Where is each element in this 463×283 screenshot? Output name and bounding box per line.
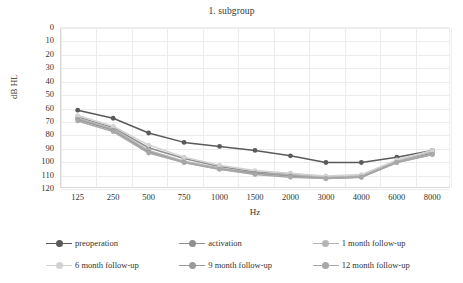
- legend-label: 12 month follow-up: [342, 260, 410, 270]
- legend-label: preoperation: [75, 238, 118, 248]
- legend-marker-icon: [179, 259, 205, 271]
- series-point: [146, 143, 151, 148]
- series-point: [253, 148, 258, 153]
- x-tick-label: 8000: [424, 192, 441, 202]
- series-point: [146, 151, 151, 156]
- y-tick-label: 100: [6, 156, 58, 166]
- y-tick-label: 80: [6, 129, 58, 139]
- series-point: [146, 131, 151, 136]
- y-tick-label: 120: [6, 183, 58, 193]
- legend-marker-icon: [313, 237, 339, 249]
- series-point: [111, 129, 116, 134]
- series-point: [359, 160, 364, 165]
- series-point: [430, 152, 435, 157]
- y-tick-label: 50: [6, 89, 58, 99]
- legend-label: 9 month follow-up: [208, 260, 272, 270]
- y-tick-label: 10: [6, 35, 58, 45]
- legend-item[interactable]: 6 month follow-up: [46, 254, 179, 276]
- legend-row: 6 month follow-up9 month follow-up12 mon…: [46, 254, 446, 276]
- y-tick-label: 30: [6, 62, 58, 72]
- legend-marker-icon: [46, 237, 72, 249]
- legend-label: activation: [208, 238, 242, 248]
- legend-item[interactable]: preoperation: [46, 232, 179, 254]
- legend-marker-icon: [313, 259, 339, 271]
- x-tick-label: 1500: [247, 192, 264, 202]
- x-tick-label: 1000: [211, 192, 228, 202]
- legend-item[interactable]: activation: [179, 232, 312, 254]
- chart-legend: preoperationactivation1 month follow-up6…: [46, 232, 446, 278]
- x-tick-label: 125: [71, 192, 84, 202]
- gridline-vertical: [451, 28, 452, 187]
- y-tick-label: 40: [6, 76, 58, 86]
- series-point: [111, 116, 116, 121]
- y-tick-label: 110: [6, 170, 58, 180]
- y-tick-label: 60: [6, 103, 58, 113]
- series-layer: [60, 27, 450, 188]
- x-axis-ticks: 1252505007501000150020003000400060008000: [60, 192, 450, 206]
- series-point: [359, 175, 364, 180]
- y-tick-label: 90: [6, 143, 58, 153]
- series-point: [324, 160, 329, 165]
- legend-marker-icon: [46, 259, 72, 271]
- series-point: [217, 167, 222, 172]
- x-tick-label: 4000: [353, 192, 370, 202]
- series-point: [182, 155, 187, 160]
- x-tick-label: 500: [142, 192, 155, 202]
- series-point: [394, 160, 399, 165]
- legend-item[interactable]: 12 month follow-up: [313, 254, 446, 276]
- series-point: [288, 175, 293, 180]
- series-line: [78, 116, 433, 176]
- series-point: [182, 140, 187, 145]
- x-tick-label: 2000: [282, 192, 299, 202]
- series-point: [182, 160, 187, 165]
- legend-marker-icon: [179, 237, 205, 249]
- x-tick-label: 3000: [317, 192, 334, 202]
- series-point: [253, 172, 258, 177]
- legend-label: 6 month follow-up: [75, 260, 139, 270]
- legend-label: 1 month follow-up: [342, 238, 406, 248]
- gridline-horizontal: [61, 189, 449, 190]
- legend-row: preoperationactivation1 month follow-up: [46, 232, 446, 254]
- series-point: [217, 144, 222, 149]
- y-tick-label: 70: [6, 116, 58, 126]
- x-tick-label: 6000: [388, 192, 405, 202]
- y-tick-label: 20: [6, 49, 58, 59]
- series-point: [324, 176, 329, 181]
- chart-title: 1. subgroup: [0, 6, 463, 16]
- audiogram-figure: 1. subgroup dB HL 0102030405060708090100…: [0, 0, 463, 283]
- plot-area-wrapper: [60, 27, 450, 188]
- y-tick-label: 0: [6, 22, 58, 32]
- y-axis-ticks: 0102030405060708090100110120: [0, 27, 58, 188]
- legend-item[interactable]: 1 month follow-up: [313, 232, 446, 254]
- x-axis-label: Hz: [60, 207, 450, 217]
- legend-item[interactable]: 9 month follow-up: [179, 254, 312, 276]
- x-tick-label: 250: [107, 192, 120, 202]
- x-tick-label: 750: [178, 192, 191, 202]
- series-point: [75, 108, 80, 113]
- series-point: [288, 153, 293, 158]
- series-point: [75, 119, 80, 124]
